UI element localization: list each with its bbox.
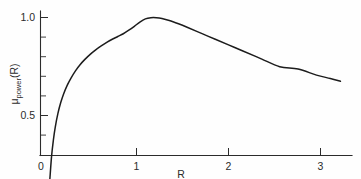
x-tick-label-2: 2: [226, 160, 232, 172]
y-tick-label-1: 1.0: [20, 11, 35, 23]
y-axis-label-argument: (R): [8, 63, 20, 78]
x-axis-label: R: [177, 168, 185, 179]
data-series-mu-power: [48, 18, 340, 179]
y-axis-label-subscript: power: [14, 78, 23, 99]
x-tick-label-3: 3: [318, 160, 324, 172]
chart-figure: 1.0 0.5 0 1 2 3 R μpower(R): [0, 0, 361, 179]
x-axis-major-ticks: [137, 148, 321, 156]
x-tick-label-1: 1: [134, 160, 140, 172]
y-axis-major-ticks: [41, 18, 49, 116]
x-tick-label-0: 0: [38, 160, 44, 172]
svg-text:μpower(R): μpower(R): [8, 63, 23, 104]
mu-power-line-chart: 1.0 0.5 0 1 2 3 R μpower(R): [0, 0, 361, 179]
y-axis-minor-ticks: [41, 37, 47, 135]
y-axis-label: μpower(R): [8, 63, 23, 104]
y-tick-label-0: 0.5: [20, 109, 35, 121]
